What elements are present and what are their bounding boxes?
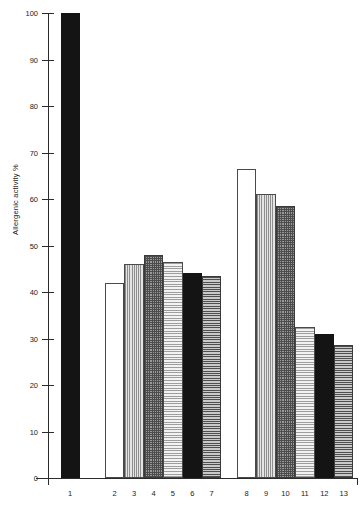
y-axis-tick <box>42 13 54 14</box>
x-axis-tick-label-13: 13 <box>334 489 354 498</box>
bar-8[interactable] <box>237 169 256 478</box>
x-axis-tick-label-12: 12 <box>314 489 334 498</box>
y-axis-tick-label: 30 <box>0 334 38 343</box>
bar-13[interactable] <box>334 345 353 478</box>
bar-7[interactable] <box>202 276 221 478</box>
y-axis-tick-label: 60 <box>0 195 38 204</box>
y-axis-tick-label: 90 <box>0 55 38 64</box>
y-axis-tick <box>42 292 54 293</box>
y-axis-tick <box>42 432 54 433</box>
bar-10[interactable] <box>276 206 295 478</box>
y-axis-tick <box>42 339 54 340</box>
x-axis-tick-label-4: 4 <box>144 489 164 498</box>
y-axis-tick <box>42 153 54 154</box>
bar-5[interactable] <box>163 262 182 478</box>
x-axis-line <box>36 478 358 479</box>
x-axis-tick-label-6: 6 <box>182 489 202 498</box>
y-axis-tick <box>42 385 54 386</box>
x-axis-tick-label-11: 11 <box>295 489 315 498</box>
bar-chart: Allergenic activity % 010203040506070809… <box>0 0 362 512</box>
bar-1[interactable] <box>61 13 80 478</box>
y-axis-tick <box>42 60 54 61</box>
bar-6[interactable] <box>183 273 202 478</box>
bar-12[interactable] <box>315 334 334 478</box>
x-axis-tick-label-7: 7 <box>202 489 222 498</box>
x-axis-tick-label-2: 2 <box>105 489 125 498</box>
bar-9[interactable] <box>256 194 275 478</box>
x-axis-tick-label-5: 5 <box>163 489 183 498</box>
x-axis-right-end-tick <box>357 478 358 485</box>
bar-4[interactable] <box>144 255 163 478</box>
y-axis-tick-label: 70 <box>0 148 38 157</box>
y-axis-tick-label: 10 <box>0 427 38 436</box>
x-axis-tick-label-3: 3 <box>124 489 144 498</box>
y-axis-tick-label: 100 <box>0 9 38 18</box>
x-axis-tick-label-8: 8 <box>237 489 257 498</box>
y-axis-tick <box>42 246 54 247</box>
y-axis-tick-label: 40 <box>0 288 38 297</box>
x-axis-tick-label-9: 9 <box>256 489 276 498</box>
x-axis-tick-label-1: 1 <box>60 489 80 498</box>
x-axis-left-end-tick <box>48 478 49 485</box>
y-axis-tick-label: 20 <box>0 381 38 390</box>
y-axis-tick-label: 80 <box>0 102 38 111</box>
bar-3[interactable] <box>124 264 143 478</box>
y-axis-tick <box>42 199 54 200</box>
y-axis-tick <box>42 106 54 107</box>
y-axis-tick-label: 50 <box>0 241 38 250</box>
bar-11[interactable] <box>295 327 314 478</box>
bar-2[interactable] <box>105 283 124 478</box>
x-axis-tick-label-10: 10 <box>276 489 296 498</box>
y-axis-tick-label: 0 <box>0 474 38 483</box>
